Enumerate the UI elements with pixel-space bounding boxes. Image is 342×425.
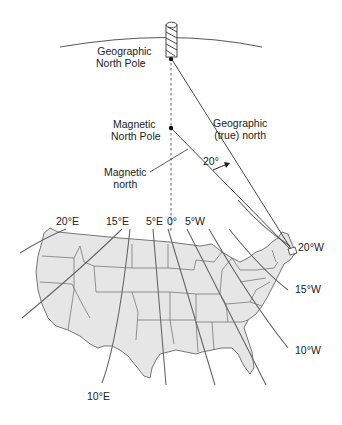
isogonic-label-5e: 5°E: [146, 215, 163, 227]
isogonic-label-5w: 5°W: [185, 215, 205, 227]
isogonic-label-15e: 15°E: [106, 215, 129, 227]
earth-axis-rod: [166, 22, 177, 57]
isogonic-label-15w: 15°W: [295, 283, 321, 295]
isogonic-label-0: 0°: [167, 215, 177, 227]
isogonic-label-10e: 10°E: [87, 390, 110, 402]
geographic-true-north-label: Geographic (true) north: [213, 117, 267, 141]
magnetic-pole-dot: [169, 126, 173, 130]
diagram-canvas: [0, 0, 342, 425]
geographic-pole-dot: [169, 57, 173, 61]
us-map: [36, 228, 296, 378]
isogonic-label-20w: 20°W: [298, 241, 324, 253]
magnetic-north-leader: [150, 149, 188, 172]
declination-diagram: Geographic North Pole Magnetic North Pol…: [0, 0, 342, 425]
magnetic-north-label: Magnetic north: [104, 166, 147, 190]
earth-horizon-arc: [60, 38, 262, 48]
isogonic-label-10w: 10°W: [295, 344, 321, 356]
observer-marker: [288, 247, 297, 255]
angle-label: 20°: [203, 155, 219, 167]
isogonic-label-20e: 20°E: [56, 215, 79, 227]
magnetic-north-pole-label: Magnetic North Pole: [111, 118, 161, 142]
geographic-north-pole-label: Geographic North Pole: [96, 45, 152, 69]
